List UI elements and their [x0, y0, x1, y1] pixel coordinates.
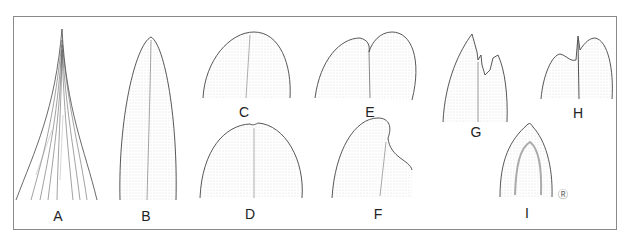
- label-e: E: [365, 105, 374, 119]
- label-d: D: [245, 207, 255, 221]
- leaf-d-retuse: [200, 123, 302, 198]
- leaf-h-mucronate: [541, 36, 612, 99]
- label-h: H: [573, 106, 583, 120]
- label-b: B: [141, 209, 150, 223]
- label-a: A: [53, 209, 62, 223]
- leaf-f-oblique: [332, 118, 412, 198]
- artist-signature: Ⓡ: [558, 186, 568, 201]
- leaf-a-acuminate: [16, 29, 97, 200]
- leaf-g-erose: [443, 34, 507, 122]
- leaf-apex-illustrations: [0, 0, 632, 244]
- leaf-b-acute: [120, 37, 176, 200]
- label-i: I: [525, 206, 529, 220]
- leaf-i-cuspidate: [500, 124, 552, 197]
- leaf-c-obtuse: [203, 32, 290, 98]
- label-g: G: [471, 125, 482, 139]
- leaf-e-emarginate: [315, 32, 416, 100]
- label-c: C: [239, 105, 249, 119]
- label-f: F: [374, 207, 383, 221]
